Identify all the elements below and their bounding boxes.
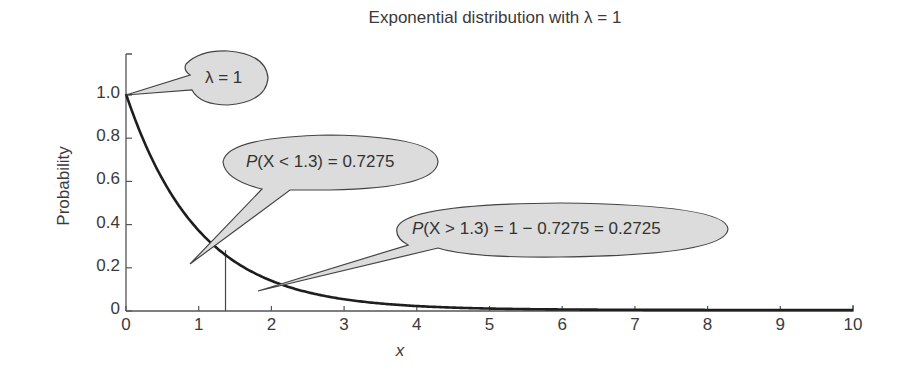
callout-p-greater-body: (X > 1.3) = 1 − 0.7275 = 0.2725 (423, 219, 660, 238)
x-axis-label: x (385, 341, 415, 361)
y-tick-label: 0.8 (96, 126, 120, 146)
y-tick-label: 0.6 (96, 169, 120, 189)
x-tick-label: 4 (397, 315, 437, 335)
chart-title: Exponential distribution with λ = 1 (0, 8, 900, 28)
x-tick-label: 10 (833, 315, 873, 335)
callout-lambda-text: λ = 1 (205, 68, 242, 88)
y-ticks (126, 95, 132, 311)
callout-lambda (126, 51, 268, 105)
callout-p-greater (258, 203, 728, 291)
x-tick-label: 8 (688, 315, 728, 335)
x-tick-label: 5 (470, 315, 510, 335)
callout-p-greater-symbol: P (412, 219, 423, 238)
x-tick-label: 7 (615, 315, 655, 335)
x-tick-label: 3 (324, 315, 364, 335)
y-axis-label: Probability (54, 136, 74, 236)
x-tick-label: 6 (542, 315, 582, 335)
y-tick-label: 0.4 (96, 213, 120, 233)
x-tick-label: 9 (760, 315, 800, 335)
x-tick-label: 0 (106, 315, 146, 335)
y-tick-label: 1.0 (96, 83, 120, 103)
y-axis (126, 54, 132, 311)
x-tick-label: 1 (179, 315, 219, 335)
callout-p-less-symbol: P (246, 152, 257, 171)
exponential-curve (126, 94, 853, 310)
callout-p-less-text: P(X < 1.3) = 0.7275 (246, 152, 394, 172)
y-tick-label: 0.2 (96, 256, 120, 276)
x-tick-label: 2 (251, 315, 291, 335)
callout-p-greater-text: P(X > 1.3) = 1 − 0.7275 = 0.2725 (412, 219, 661, 239)
callout-p-less-body: (X < 1.3) = 0.7275 (257, 152, 394, 171)
